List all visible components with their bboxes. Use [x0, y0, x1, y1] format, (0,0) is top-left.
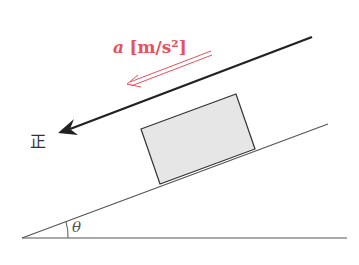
acceleration-unit: [m/s²]: [129, 37, 186, 57]
block: [141, 94, 255, 184]
positive-direction-label: 正: [30, 128, 46, 152]
angle-arc: [66, 222, 68, 238]
acceleration-label: a [m/s²]: [113, 37, 187, 57]
angle-label: θ: [72, 218, 81, 236]
acceleration-symbol: a: [113, 37, 124, 57]
